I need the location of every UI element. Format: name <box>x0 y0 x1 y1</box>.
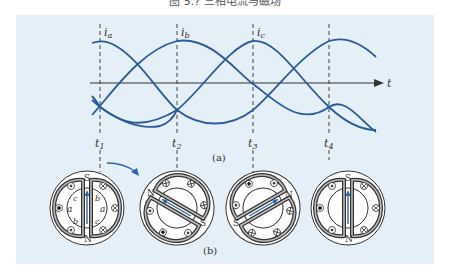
pole-south: S <box>345 173 351 183</box>
axis-arrow-icon <box>374 79 384 87</box>
curve-ib-main <box>92 41 376 132</box>
motor-t1: S N c a b b a c <box>50 171 124 245</box>
svg-text:a: a <box>67 204 72 214</box>
curve-ic <box>92 41 376 130</box>
motor-t4: S N <box>311 171 385 245</box>
axis-label-t: t <box>387 77 392 90</box>
svg-text:b: b <box>95 194 100 203</box>
pole-south: S <box>233 218 239 228</box>
time-labels: t1 t2 t3 t4 <box>94 136 335 151</box>
pole-north: N <box>345 234 353 244</box>
time-axis <box>90 79 384 87</box>
pole-south: S <box>200 218 206 228</box>
time-marker-lines <box>100 24 329 172</box>
svg-text:c: c <box>73 194 78 203</box>
rotation-arrow-icon <box>107 163 136 172</box>
pole-north: N <box>84 234 92 244</box>
figure-svg: t ia ib ic t1 t2 t3 t4 (a) <box>0 0 450 275</box>
pole-north: N <box>285 190 293 200</box>
motor-t2: N S <box>126 157 227 258</box>
svg-text:c: c <box>95 217 100 226</box>
pole-north: N <box>147 188 155 198</box>
svg-text:a: a <box>100 204 105 214</box>
current-curves <box>92 39 376 132</box>
pole-south: S <box>84 173 90 183</box>
svg-text:ic: ic <box>257 26 266 40</box>
svg-text:ia: ia <box>104 26 113 40</box>
subfigure-label-b: (b) <box>203 245 217 256</box>
subfigure-label-a: (a) <box>212 152 226 163</box>
svg-text:ib: ib <box>181 26 190 40</box>
motor-t3: N S <box>212 157 313 258</box>
svg-text:b: b <box>73 217 78 226</box>
current-labels: ia ib ic <box>104 26 266 40</box>
